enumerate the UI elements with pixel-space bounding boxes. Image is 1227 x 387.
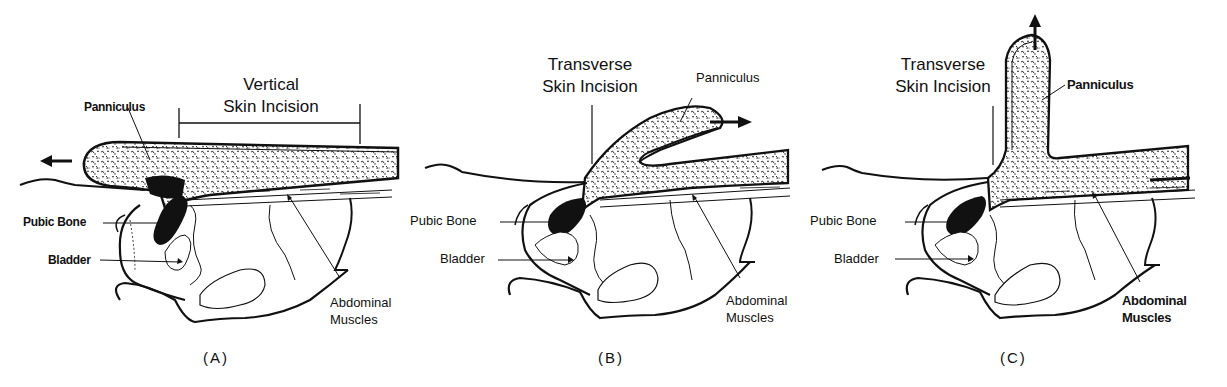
pubic-bone-label: Pubic Bone — [810, 214, 877, 227]
panel-caption: (A) — [203, 350, 229, 365]
panel-caption: (B) — [598, 350, 624, 365]
bladder-label: Bladder — [48, 254, 91, 266]
panel-a: Vertical Skin Incision Panniculus Pubic … — [0, 0, 410, 387]
panniculus-label: Panniculus — [1067, 78, 1133, 91]
panel-c: Transverse Skin Incision Panniculus Pubi… — [810, 0, 1227, 387]
abdominal-muscles-label: Abdominal Muscles — [330, 294, 391, 328]
bladder-label: Bladder — [440, 252, 485, 265]
incision-label: Transverse Skin Incision — [878, 54, 1008, 98]
panel-caption: (C) — [1000, 350, 1027, 365]
incision-label: Transverse Skin Incision — [525, 54, 655, 98]
incision-label: Vertical Skin Incision — [180, 74, 362, 118]
abdominal-muscles-label: Abdominal Muscles — [726, 292, 787, 326]
panniculus-label: Panniculus — [84, 101, 145, 113]
abdominal-muscles-label: Abdominal Muscles — [1122, 292, 1186, 326]
pubic-bone-label: Pubic Bone — [410, 214, 477, 227]
panel-b: Transverse Skin Incision Panniculus Pubi… — [410, 0, 820, 387]
panel-a-illustration — [0, 0, 410, 387]
bladder-label: Bladder — [834, 252, 879, 265]
panel-c-illustration — [810, 0, 1227, 387]
panniculus-label: Panniculus — [696, 71, 760, 84]
pubic-bone-label: Pubic Bone — [23, 216, 86, 228]
